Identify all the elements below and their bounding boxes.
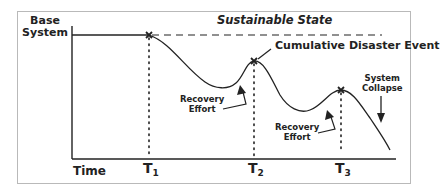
collapse-arrow-icon <box>377 96 385 123</box>
collapse-line1: System <box>362 73 403 83</box>
cumulative-disaster-label: Cumulative Disaster Event <box>275 39 440 52</box>
t1-tick-label: T1 <box>143 160 159 178</box>
system-curve <box>149 35 390 150</box>
t3-letter: T <box>335 160 345 176</box>
recovery-1-line2: Effort <box>180 104 224 114</box>
recovery-2-line2: Effort <box>275 132 319 142</box>
recovery-effort-label-2: Recovery Effort <box>275 122 319 142</box>
x-axis-label: Time <box>73 164 106 178</box>
t2-letter: T <box>248 160 258 176</box>
y-axis-label: Base System <box>22 15 68 39</box>
recovery-effort-label-1: Recovery Effort <box>180 94 224 114</box>
recovery-1-line1: Recovery <box>180 94 224 104</box>
t1-letter: T <box>143 160 153 176</box>
recovery-arrow-2-icon <box>318 110 335 133</box>
t2-tick-label: T2 <box>248 160 264 178</box>
recovery-2-line1: Recovery <box>275 122 319 132</box>
sustainable-state-label: Sustainable State <box>217 13 332 27</box>
cumulative-pointer-line <box>258 49 271 59</box>
t1-subscript: 1 <box>153 168 159 178</box>
t3-tick-label: T3 <box>335 160 351 178</box>
system-collapse-label: System Collapse <box>362 73 403 93</box>
t2-subscript: 2 <box>258 168 264 178</box>
y-axis-label-line2: System <box>22 27 68 39</box>
t3-subscript: 3 <box>345 168 351 178</box>
recovery-arrow-1-icon <box>223 85 246 109</box>
collapse-line2: Collapse <box>362 83 403 93</box>
